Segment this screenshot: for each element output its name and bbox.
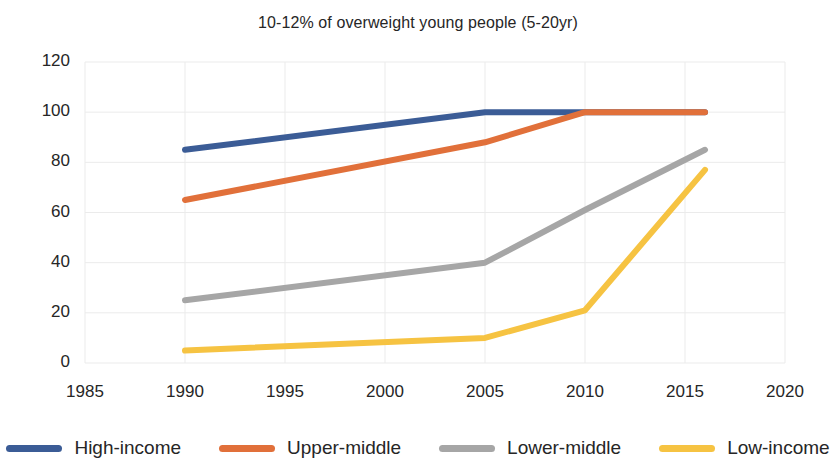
series-line-lower-middle [185, 150, 705, 300]
legend-label: Lower-middle [507, 437, 621, 459]
chart-legend: High-incomeUpper-middleLower-middleLow-i… [0, 428, 836, 468]
y-axis-tick-label: 80 [18, 151, 70, 171]
legend-color-swatch [219, 445, 275, 452]
x-axis-tick-label: 1990 [150, 382, 220, 402]
legend-label: Low-income [727, 437, 829, 459]
x-axis-tick-label: 2010 [550, 382, 620, 402]
y-axis-tick-label: 120 [18, 51, 70, 71]
legend-color-swatch [6, 445, 62, 452]
y-axis-tick-label: 100 [18, 101, 70, 121]
y-axis-tick-label: 20 [18, 302, 70, 322]
y-axis-tick-label: 40 [18, 252, 70, 272]
chart-canvas [0, 0, 836, 420]
x-axis-tick-label: 2000 [350, 382, 420, 402]
legend-color-swatch [659, 445, 715, 452]
x-axis-tick-label: 2005 [450, 382, 520, 402]
series-line-high-income [185, 112, 705, 150]
plot-area [0, 0, 836, 420]
x-axis-tick-label: 2015 [650, 382, 720, 402]
legend-color-swatch [439, 445, 495, 452]
legend-label: High-income [74, 437, 181, 459]
series-line-low-income [185, 170, 705, 351]
legend-item[interactable]: Low-income [659, 437, 829, 459]
legend-item[interactable]: Upper-middle [219, 437, 401, 459]
y-axis-tick-label: 60 [18, 202, 70, 222]
x-axis-tick-label: 1995 [250, 382, 320, 402]
x-axis-tick-label: 2020 [750, 382, 820, 402]
legend-item[interactable]: Lower-middle [439, 437, 621, 459]
legend-item[interactable]: High-income [6, 437, 181, 459]
chart-figure: 10-12% of overweight young people (5-20y… [0, 0, 836, 472]
x-axis-tick-label: 1985 [50, 382, 120, 402]
legend-label: Upper-middle [287, 437, 401, 459]
y-axis-tick-label: 0 [18, 352, 70, 372]
